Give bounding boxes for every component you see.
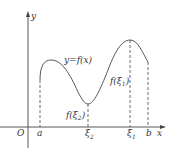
label-f-xi2: f(ξ2) [65, 110, 86, 121]
y-axis-label: y [30, 11, 37, 21]
curve-label: y=f(x) [63, 55, 93, 65]
tick-b: b [146, 128, 152, 138]
y-axis-arrow-icon [26, 11, 30, 17]
label-f-xi1: f(ξ1) [109, 76, 130, 87]
tick-xi1: ξ1 [127, 128, 136, 140]
tick-a: a [37, 128, 42, 138]
function-graph: y x O a ξ2 ξ1 b y=f(x) f(ξ1) f(ξ2) [0, 0, 174, 157]
tick-xi2: ξ2 [85, 128, 94, 140]
curve-y-equals-f-x [40, 40, 148, 104]
origin-label: O [17, 128, 25, 138]
x-axis-label: x [157, 128, 162, 138]
